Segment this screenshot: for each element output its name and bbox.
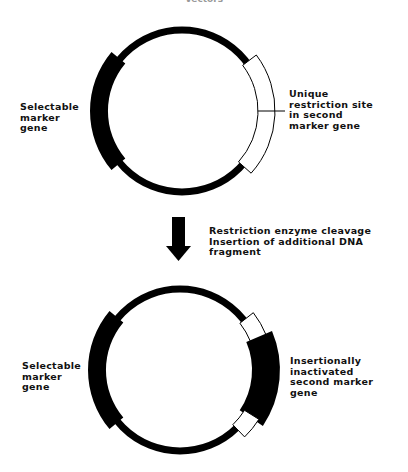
down-arrow-icon bbox=[166, 217, 191, 261]
top-restriction-site-label: Unique restriction site in second marker… bbox=[289, 89, 373, 131]
top-plasmid bbox=[90, 30, 285, 192]
second-marker-box bbox=[239, 55, 276, 173]
plasmid-ring bbox=[101, 30, 263, 192]
bottom-inactivated-marker-label: Insertionally inactivated second marker … bbox=[290, 356, 373, 398]
step-description: Restriction enzyme cleavage Insertion of… bbox=[209, 226, 371, 258]
bottom-plasmid bbox=[88, 289, 280, 451]
selectable-marker-block bbox=[88, 311, 123, 429]
bottom-selectable-marker-label: Selectable marker gene bbox=[22, 361, 81, 393]
selectable-marker-block bbox=[90, 52, 125, 170]
top-selectable-marker-label: Selectable marker gene bbox=[20, 102, 79, 134]
